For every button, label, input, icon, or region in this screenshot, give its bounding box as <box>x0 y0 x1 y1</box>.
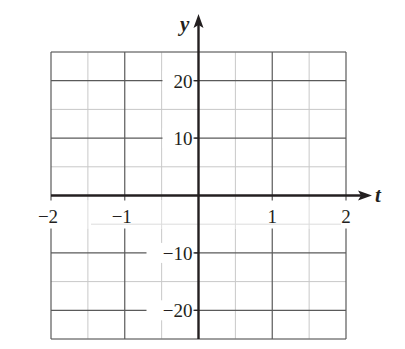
axes <box>51 14 372 339</box>
x-tick-label: 2 <box>341 206 351 227</box>
y-tick-label: 10 <box>174 128 193 149</box>
y-axis-label: y <box>177 12 190 36</box>
x-tick-label: −2 <box>38 206 58 227</box>
y-tick-label: 20 <box>174 71 193 92</box>
x-tick-label: −1 <box>112 206 132 227</box>
x-axis-label: t <box>375 183 382 207</box>
y-tick-label: −10 <box>163 243 193 264</box>
x-tick-label: 1 <box>268 206 278 227</box>
coordinate-grid: −2−1122010−10−20 t y <box>0 0 405 349</box>
y-tick-label: −20 <box>163 300 193 321</box>
